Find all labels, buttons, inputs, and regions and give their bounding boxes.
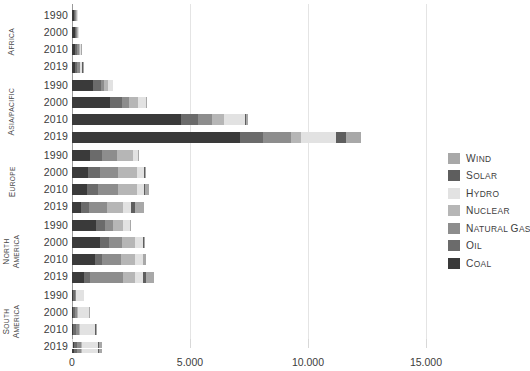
bar-segment-wind <box>246 114 249 125</box>
bar-segment-oil <box>181 114 199 125</box>
bar-segment-natural-gas <box>198 114 211 125</box>
bar-segment-hydro <box>135 254 143 265</box>
bar-segment-wind <box>146 272 154 283</box>
bar-segment-wind <box>346 132 361 143</box>
bar-segment-nuclear <box>107 202 123 213</box>
bar-segment-nuclear <box>113 220 123 231</box>
bar-segment-oil <box>110 97 122 108</box>
bar-segment-nuclear <box>118 167 138 178</box>
legend-swatch-hydro <box>448 188 460 199</box>
bar-segment-natural-gas <box>122 97 129 108</box>
legend-swatch-oil <box>448 240 460 251</box>
stacked-bar-chart: AFRICAASIA/PACIFICEUROPENORTHAMERICASOUT… <box>0 0 530 371</box>
bar-africa-1990[interactable] <box>72 10 78 21</box>
bar-segment-hydro <box>77 10 78 21</box>
bar-africa-2000[interactable] <box>72 27 78 38</box>
bar-segment-hydro <box>135 237 143 248</box>
bar-segment-nuclear <box>117 150 133 161</box>
year-label-2019: 2019 <box>28 131 68 142</box>
year-label-1990: 1990 <box>28 80 68 91</box>
bar-north-america-1990[interactable] <box>72 220 131 231</box>
bar-asia-pacific-1990[interactable] <box>72 80 113 91</box>
bar-segment-coal <box>72 184 87 195</box>
legend-item-oil[interactable]: OIL <box>448 238 530 254</box>
bar-segment-nuclear <box>118 184 137 195</box>
legend: WINDSOLARHYDRONUCLEARNATURAL GASOILCOAL <box>448 150 530 273</box>
bar-segment-natural-gas <box>98 184 118 195</box>
year-label-2010: 2010 <box>28 184 68 195</box>
bar-segment-nuclear <box>121 254 134 265</box>
bar-north-america-2019[interactable] <box>72 272 154 283</box>
bar-segment-oil <box>90 150 102 161</box>
bar-segment-wind <box>143 254 146 265</box>
bar-segment-coal <box>72 254 95 265</box>
x-tick-mark-0 <box>72 339 73 348</box>
bar-segment-coal <box>72 167 88 178</box>
gridline-5000 <box>190 4 191 348</box>
bar-asia-pacific-2019[interactable] <box>72 132 361 143</box>
legend-item-hydro[interactable]: HYDRO <box>448 185 530 201</box>
bar-south-america-2010[interactable] <box>72 324 96 335</box>
bar-segment-natural-gas <box>90 272 123 283</box>
bar-segment-oil <box>240 132 263 143</box>
bar-europe-2019[interactable] <box>72 202 144 213</box>
legend-item-natural-gas[interactable]: NATURAL GAS <box>448 220 530 236</box>
bar-segment-nuclear <box>123 272 135 283</box>
bar-south-america-1990[interactable] <box>72 290 84 301</box>
year-label-2019: 2019 <box>28 271 68 282</box>
year-label-1990: 1990 <box>28 10 68 21</box>
bar-africa-2010[interactable] <box>72 44 82 55</box>
bar-segment-wind <box>135 202 144 213</box>
year-label-2010: 2010 <box>28 254 68 265</box>
bar-asia-pacific-2000[interactable] <box>72 97 147 108</box>
bar-segment-hydro <box>108 80 113 91</box>
bar-africa-2019[interactable] <box>72 62 83 73</box>
bar-segment-hydro <box>224 114 245 125</box>
x-axis-baseline <box>72 348 426 349</box>
legend-item-coal[interactable]: COAL <box>448 255 530 271</box>
bar-segment-hydro <box>137 167 144 178</box>
bar-europe-1990[interactable] <box>72 150 139 161</box>
plot-area <box>72 4 426 348</box>
bar-segment-oil <box>87 184 98 195</box>
year-label-2019: 2019 <box>28 61 68 72</box>
bar-segment-hydro <box>78 27 79 38</box>
bar-segment-hydro <box>78 307 89 318</box>
bar-segment-wind <box>145 167 146 178</box>
bar-europe-2000[interactable] <box>72 167 146 178</box>
x-tick-label-10000: 10.000 <box>292 356 324 368</box>
bar-segment-natural-gas <box>102 254 122 265</box>
bar-segment-coal <box>72 220 96 231</box>
year-label-1990: 1990 <box>28 150 68 161</box>
x-tick-mark-10000 <box>308 339 309 348</box>
bar-segment-oil <box>93 80 101 91</box>
bar-south-america-2000[interactable] <box>72 307 90 318</box>
bar-segment-hydro <box>123 202 131 213</box>
bar-segment-nuclear <box>212 114 224 125</box>
bar-asia-pacific-2010[interactable] <box>72 114 248 125</box>
bar-segment-wind <box>138 150 139 161</box>
bar-segment-coal <box>72 237 100 248</box>
x-tick-label-15000: 15.000 <box>410 356 442 368</box>
legend-item-wind[interactable]: WIND <box>448 150 530 166</box>
bar-segment-hydro <box>76 290 84 301</box>
bar-segment-hydro <box>138 97 145 108</box>
bar-segment-coal <box>72 132 240 143</box>
legend-item-solar[interactable]: SOLAR <box>448 168 530 184</box>
bar-north-america-2010[interactable] <box>72 254 146 265</box>
bar-segment-nuclear <box>129 97 138 108</box>
bar-segment-oil <box>81 202 89 213</box>
bar-europe-2010[interactable] <box>72 184 149 195</box>
bar-segment-oil <box>95 254 102 265</box>
x-tick-label-0: 0 <box>69 356 75 368</box>
bar-segment-coal <box>72 114 181 125</box>
bar-segment-hydro <box>301 132 336 143</box>
year-label-2010: 2010 <box>28 114 68 125</box>
year-label-1990: 1990 <box>28 290 68 301</box>
bar-north-america-2000[interactable] <box>72 237 145 248</box>
legend-item-nuclear[interactable]: NUCLEAR <box>448 203 530 219</box>
bar-segment-wind <box>145 184 149 195</box>
bar-segment-oil <box>96 220 104 231</box>
bar-segment-oil <box>88 167 100 178</box>
bar-segment-oil <box>100 237 109 248</box>
